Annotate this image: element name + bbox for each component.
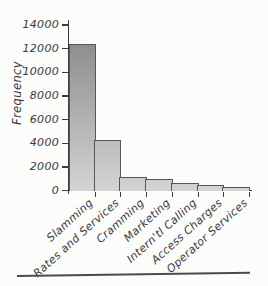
x-axis-tick xyxy=(146,192,147,197)
y-tick-label: 4000 xyxy=(13,137,59,149)
x-axis-tick xyxy=(95,192,96,197)
pareto-chart: Frequency 020004000600080001000012000140… xyxy=(0,0,268,286)
y-axis-tick xyxy=(62,190,68,191)
y-axis-tick xyxy=(62,95,68,96)
y-tick-label: 8000 xyxy=(13,90,59,102)
x-axis-tick xyxy=(172,192,173,197)
x-axis-tick xyxy=(249,192,250,197)
y-axis-tick xyxy=(62,48,68,49)
bar-cramming xyxy=(119,177,147,191)
y-tick-label: 12000 xyxy=(13,43,59,55)
y-tick-label: 0 xyxy=(13,185,59,197)
bar-operator-services xyxy=(222,187,250,191)
bar-intern-tl-calling xyxy=(171,183,199,191)
x-axis-tick xyxy=(198,192,199,197)
x-axis-tick xyxy=(223,192,224,197)
x-axis-tick xyxy=(120,192,121,197)
y-axis-tick xyxy=(62,166,68,167)
y-axis-tick xyxy=(62,24,68,25)
bar-marketing xyxy=(145,179,173,191)
y-tick-label: 6000 xyxy=(13,114,59,126)
y-axis-tick xyxy=(62,72,68,73)
bar-rates-and-services xyxy=(94,140,121,191)
bar-access-charges xyxy=(197,185,224,191)
bottom-rule xyxy=(17,272,250,277)
y-axis-tick xyxy=(62,119,68,120)
y-tick-label: 10000 xyxy=(13,66,59,78)
y-axis-tick xyxy=(62,143,68,144)
y-tick-label: 2000 xyxy=(13,161,59,173)
y-tick-label: 14000 xyxy=(13,19,59,31)
bar-slamming xyxy=(69,44,96,191)
